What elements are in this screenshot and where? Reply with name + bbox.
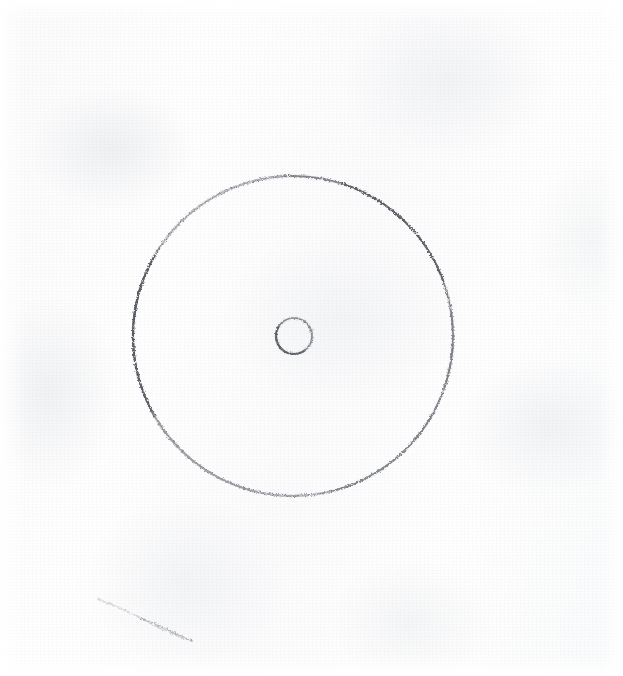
pencil-drawing — [0, 0, 623, 676]
stray-mark — [98, 599, 192, 641]
sketch-svg — [0, 0, 623, 676]
center-circle-mark — [276, 318, 313, 354]
outer-circle-mark — [133, 176, 453, 496]
drawing-canvas — [0, 0, 623, 676]
